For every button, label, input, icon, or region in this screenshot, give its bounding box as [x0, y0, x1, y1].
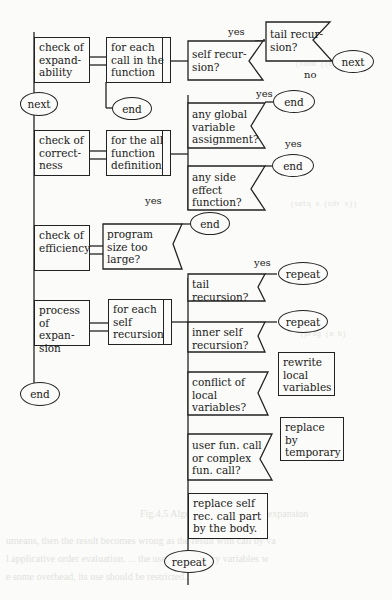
- branch-label-no: no: [304, 69, 316, 80]
- terminal-end: end: [272, 154, 314, 177]
- terminal-repeat: repeat: [164, 550, 214, 573]
- decision-user-fun-call: user fun. call or complex fun. call?: [192, 439, 262, 477]
- branch-label-yes: yes: [145, 195, 162, 206]
- decision-tail-recursion: tail recur- sion?: [270, 28, 323, 53]
- decision-inner-self-recursion: inner self recursion?: [192, 326, 248, 351]
- decision-program-size: program size too large?: [107, 228, 153, 266]
- branch-label-yes: yes: [228, 26, 245, 37]
- action-replace-by-temporary: replace by temporary: [280, 417, 344, 461]
- decision-self-recursion: self recur- sion?: [192, 48, 247, 73]
- terminal-end: end: [273, 90, 315, 113]
- terminal-end: end: [190, 212, 230, 235]
- decision-global-assignment: any global variable assignment?: [192, 108, 259, 146]
- terminal-repeat: repeat: [278, 262, 328, 285]
- branch-label-yes: yes: [256, 88, 273, 99]
- branch-label-yes: yes: [254, 257, 271, 268]
- terminal-next: next: [332, 50, 374, 73]
- action-replace-with-body: replace self rec. call part by the body.: [188, 493, 268, 539]
- terminal-repeat: repeat: [278, 310, 328, 333]
- decision-conflict-local: conflict of local variables?: [192, 376, 246, 414]
- branch-label-yes: yes: [285, 138, 302, 149]
- action-rewrite-local-variables: rewrite local variables: [278, 352, 335, 396]
- decision-tail-recursion-2: tail recursion?: [192, 278, 248, 303]
- decision-side-effect: any side effect function?: [192, 171, 242, 209]
